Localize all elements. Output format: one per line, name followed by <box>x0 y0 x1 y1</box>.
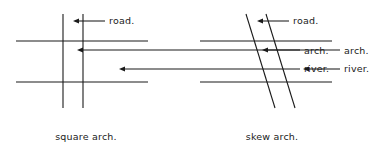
arrowhead-river <box>119 66 125 71</box>
label-road: road. <box>293 15 318 26</box>
caption-skew-arch: skew arch. <box>246 131 299 142</box>
figure-canvas: road.arch.river.square arch.road.arch.ri… <box>0 0 385 149</box>
arrowhead-road <box>257 18 263 23</box>
panel-skew-arch: road.arch.river.skew arch. <box>200 14 369 142</box>
callout-road: road. <box>257 15 318 26</box>
panel-square-arch: road.arch.river.square arch. <box>16 14 329 142</box>
arrowhead-arch <box>77 47 83 52</box>
callout-road: road. <box>73 15 134 26</box>
caption-square-arch: square arch. <box>55 131 117 142</box>
callout-river: river. <box>119 63 329 74</box>
arch-comparison-diagram: road.arch.river.square arch.road.arch.ri… <box>0 0 385 149</box>
label-arch: arch. <box>344 45 369 56</box>
label-river: river. <box>344 63 369 74</box>
arrowhead-road <box>73 18 79 23</box>
label-road: road. <box>109 15 134 26</box>
arrowhead-arch <box>262 47 268 52</box>
